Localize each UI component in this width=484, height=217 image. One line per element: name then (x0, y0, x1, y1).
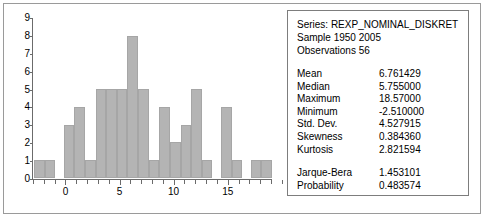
y-axis-tick (30, 125, 33, 126)
stat-row: Std. Dev.4.527915 (297, 118, 468, 131)
stat-name: Jarque-Bera (297, 167, 379, 180)
x-axis-tick (141, 180, 142, 184)
histogram-bars (34, 18, 272, 178)
stat-row: Kurtosis2.821594 (297, 144, 468, 157)
y-axis-tick-label: 8 (8, 31, 30, 41)
stat-name: Minimum (297, 106, 379, 119)
y-axis-tick (30, 36, 33, 37)
stat-name: Probability (297, 180, 379, 193)
stats-spacer-bottom (297, 156, 468, 167)
stat-row: Median5.755000 (297, 81, 468, 94)
histogram-bar (96, 89, 107, 178)
x-axis-tick (163, 180, 164, 184)
histogram-bar (34, 160, 45, 178)
stat-value: 6.761429 (379, 68, 421, 81)
x-axis-tick (174, 180, 175, 185)
histogram-bar (251, 160, 262, 178)
histogram-bar (261, 160, 272, 178)
test-row: Probability0.483574 (297, 180, 468, 193)
y-axis-tick-label: 7 (8, 49, 30, 59)
plot-area (32, 18, 272, 180)
y-axis-tick-label: 5 (8, 85, 30, 95)
x-axis-tick (195, 180, 196, 184)
stat-name: Std. Dev. (297, 118, 379, 131)
x-axis-tick (206, 180, 207, 184)
stat-name: Mean (297, 68, 379, 81)
x-axis-tick (249, 180, 250, 184)
y-axis-labels: 9876543210 (8, 8, 30, 180)
histogram-bar (181, 125, 192, 178)
sample-range-label: Sample 1950 2005 (297, 31, 468, 44)
x-axis-tick (184, 180, 185, 184)
histogram-chart: 9876543210 051015 (8, 8, 276, 208)
y-axis-tick-label: 9 (8, 13, 30, 23)
x-axis-tick (271, 180, 272, 184)
histogram-bar (74, 107, 85, 178)
statistics-panel: Series: REXP_NOMINAL_DISKRET Sample 1950… (287, 10, 469, 196)
stats-spacer-top (297, 57, 468, 68)
stat-name: Median (297, 81, 379, 94)
x-axis-tick (239, 180, 240, 184)
stat-value: 2.821594 (379, 144, 421, 157)
x-axis-tick-label: 15 (222, 186, 233, 197)
x-axis-labels: 051015 (33, 186, 271, 200)
y-axis-tick-label: 3 (8, 120, 30, 130)
x-axis-tick (282, 180, 283, 184)
y-axis-tick (30, 72, 33, 73)
histogram-bar (138, 89, 149, 178)
y-axis-tick-label: 6 (8, 67, 30, 77)
histogram-bar (191, 89, 202, 178)
x-axis-tick-label: 10 (168, 186, 179, 197)
x-axis-tick-label: 5 (117, 186, 123, 197)
y-axis-tick (30, 90, 33, 91)
series-name-label: Series: REXP_NOMINAL_DISKRET (297, 18, 468, 31)
x-axis-tick (98, 180, 99, 184)
x-axis-tick (55, 180, 56, 184)
stat-value: 5.755000 (379, 81, 421, 94)
y-axis-tick-label: 0 (8, 174, 30, 184)
histogram-bar (170, 142, 181, 178)
x-axis-tick (65, 180, 66, 185)
histogram-bar (232, 160, 243, 178)
y-axis-tick (30, 161, 33, 162)
x-axis-tick (76, 180, 77, 184)
stat-value: 1.453101 (379, 167, 421, 180)
y-axis-tick-label: 4 (8, 102, 30, 112)
x-axis-tick (44, 180, 45, 184)
x-axis-tick (152, 180, 153, 184)
x-axis-tick (228, 180, 229, 185)
x-axis-tick-label: 0 (63, 186, 69, 197)
x-axis-tick (130, 180, 131, 184)
y-axis-tick (30, 107, 33, 108)
histogram-bar (149, 160, 160, 178)
x-axis-tick (217, 180, 218, 184)
stat-row: Maximum18.57000 (297, 93, 468, 106)
test-row: Jarque-Bera1.453101 (297, 167, 468, 180)
histogram-bar (221, 107, 232, 178)
stat-row: Skewness0.384360 (297, 131, 468, 144)
x-axis-tick (120, 180, 121, 185)
histogram-bar (202, 160, 213, 178)
histogram-bar (45, 160, 56, 178)
x-axis-ticks (33, 180, 271, 185)
x-axis-tick (260, 180, 261, 184)
y-axis-tick (30, 143, 33, 144)
histogram-bar (64, 125, 75, 178)
x-axis-tick (33, 180, 34, 184)
histogram-figure: 9876543210 051015 Series: REXP_NOMINAL_D… (0, 0, 484, 217)
observations-label: Observations 56 (297, 44, 468, 57)
stat-value: 4.527915 (379, 118, 421, 131)
histogram-bar (159, 107, 170, 178)
y-axis-tick (30, 18, 33, 19)
x-axis-tick (87, 180, 88, 184)
stat-value: 18.57000 (379, 93, 421, 106)
stat-value: -2.510000 (379, 106, 424, 119)
y-axis-tick-label: 2 (8, 138, 30, 148)
stat-name: Kurtosis (297, 144, 379, 157)
stat-row: Minimum-2.510000 (297, 106, 468, 119)
y-axis-tick-label: 1 (8, 156, 30, 166)
stat-name: Maximum (297, 93, 379, 106)
x-axis-tick (109, 180, 110, 184)
y-axis-tick (30, 54, 33, 55)
normality-test-list: Jarque-Bera1.453101Probability0.483574 (297, 167, 468, 192)
